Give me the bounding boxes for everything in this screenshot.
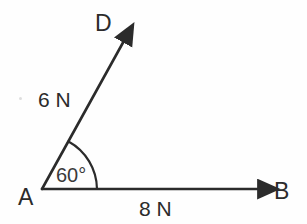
scan-speck xyxy=(19,97,22,100)
label-angle-value: 60° xyxy=(56,164,86,186)
label-point-a: A xyxy=(18,184,34,210)
label-force-ab: 8 N xyxy=(139,197,172,220)
label-point-b: B xyxy=(274,178,289,204)
figure-canvas: A B D 6 N 8 N 60° xyxy=(0,0,307,224)
label-point-d: D xyxy=(95,10,112,36)
vector-diagram: A B D 6 N 8 N 60° xyxy=(0,0,307,224)
label-force-ad: 6 N xyxy=(38,88,71,111)
